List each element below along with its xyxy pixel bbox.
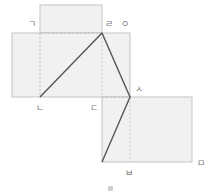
- caption-marker: [108, 186, 113, 191]
- net-diagram: ㄱ ㄹ ㅇ ㅅ ㄴ ㄷ ㅂ ㅁ: [0, 0, 213, 195]
- label-bieup: ㅂ: [125, 168, 133, 178]
- label-siot: ㅅ: [135, 84, 143, 94]
- label-ieung: ㅇ: [121, 19, 129, 29]
- label-giyeok: ㄱ: [28, 19, 36, 29]
- label-rieul: ㄹ: [105, 19, 113, 29]
- label-mieum: ㅁ: [197, 158, 205, 168]
- label-nieun: ㄴ: [36, 103, 44, 113]
- label-digeut: ㄷ: [90, 103, 98, 113]
- top-face: [40, 5, 102, 33]
